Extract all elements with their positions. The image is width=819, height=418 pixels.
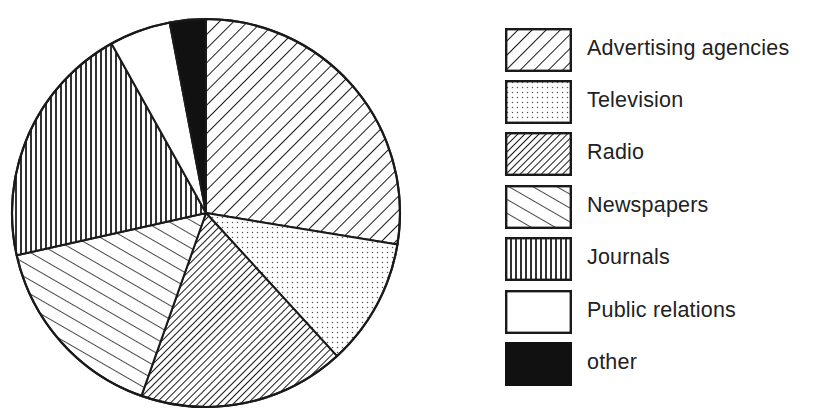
legend-item-journals: Journals <box>505 237 819 281</box>
legend-label: Radio <box>587 139 644 165</box>
legend-label: Television <box>587 87 683 113</box>
legend-label: Newspapers <box>587 192 709 218</box>
pie-slice-advertising <box>206 19 400 245</box>
legend-label: Public relations <box>587 297 736 323</box>
legend-swatch-television-icon <box>505 80 572 124</box>
legend-item-public-relations: Public relations <box>505 290 819 334</box>
legend-item-radio: Radio <box>505 132 819 176</box>
legend-swatch-journals-icon <box>505 237 572 281</box>
legend-swatch-radio-icon <box>505 132 572 176</box>
legend-swatch-other-icon <box>505 342 572 386</box>
legend-item-newspapers: Newspapers <box>505 185 819 229</box>
legend-label: other <box>587 349 637 375</box>
pie-chart-figure: Advertising agencies Television Radio Ne… <box>0 0 819 418</box>
legend-swatch-public-relations-icon <box>505 290 572 334</box>
legend-label: Journals <box>587 244 670 270</box>
pie-slices <box>12 19 400 407</box>
legend-swatch-advertising-icon <box>505 28 572 72</box>
legend-item-television: Television <box>505 80 819 124</box>
legend-label: Advertising agencies <box>587 35 789 61</box>
legend-item-other: other <box>505 342 819 386</box>
legend-swatch-newspapers-icon <box>505 185 572 229</box>
legend-item-advertising-agencies: Advertising agencies <box>505 28 819 72</box>
